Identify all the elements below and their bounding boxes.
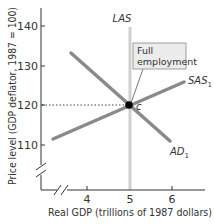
x-tick-label: 6	[169, 193, 176, 206]
x-tick-label: 5	[127, 193, 134, 206]
y-axis-break-icon	[36, 163, 46, 177]
full-employment-label-line2: employment	[137, 56, 197, 67]
y-tick-label: 120	[17, 99, 38, 112]
x-axis-title: Real GDP (trillions of 1987 dollars)	[48, 207, 212, 218]
svg-text:SAS1: SAS1	[188, 75, 212, 89]
ad-label: AD1	[169, 146, 189, 160]
point-c-label: c	[136, 101, 142, 112]
svg-text:AD1: AD1	[169, 146, 189, 160]
y-ticks	[41, 26, 45, 145]
y-tick-label: 130	[17, 60, 38, 73]
sas-curve	[53, 82, 184, 139]
equilibrium-point-c	[125, 101, 133, 109]
annotation-leader-line	[131, 69, 143, 103]
las-label: LAS	[113, 13, 132, 24]
y-axis-title: Price level (GDP deflator, 1987 = 100)	[7, 7, 18, 185]
y-tick-label: 110	[17, 139, 38, 152]
sas-label: SAS1	[188, 75, 212, 89]
x-tick-label: 4	[84, 193, 91, 206]
y-tick-label: 140	[17, 20, 38, 33]
ad-as-chart: 140 130 120 110 4 5 6 Real GDP (trillion…	[0, 0, 214, 224]
full-employment-label-line1: Full	[137, 45, 153, 56]
